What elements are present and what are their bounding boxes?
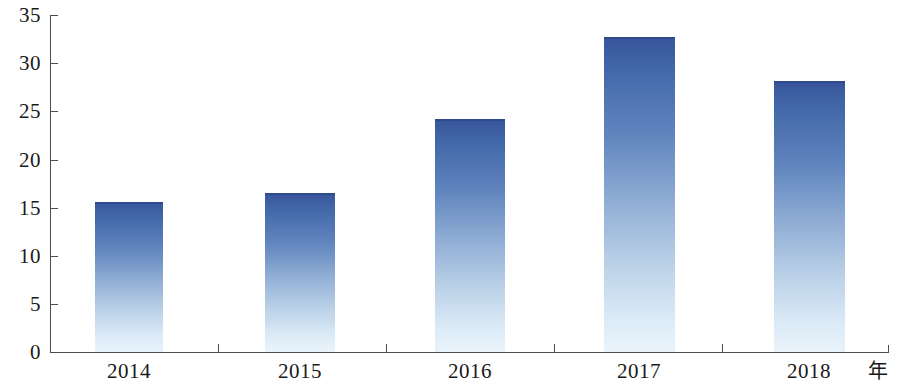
- x-axis-label-2016: 2016: [400, 360, 540, 383]
- y-tick-10: [51, 256, 58, 257]
- y-axis-label-0: 0: [1, 342, 41, 363]
- y-tick-20: [51, 160, 58, 161]
- y-axis-label-25: 25: [1, 101, 41, 122]
- x-axis-label-2014: 2014: [59, 360, 199, 383]
- bar-top-edge: [265, 193, 335, 195]
- x-axis-label-2018: 2018: [739, 360, 879, 383]
- y-axis-label-10: 10: [1, 246, 41, 267]
- y-axis-label-30: 30: [1, 53, 41, 74]
- x-tick-3: [554, 344, 555, 352]
- y-axis-label-5: 5: [1, 294, 41, 315]
- x-axis-title: 年: [861, 360, 895, 383]
- bar-2016: [435, 119, 505, 352]
- y-axis-line: [50, 15, 51, 353]
- x-tick-1: [218, 344, 219, 352]
- y-axis-label-35: 35: [1, 5, 41, 26]
- y-tick-30: [51, 63, 58, 64]
- y-tick-25: [51, 111, 58, 112]
- y-tick-0: [51, 352, 58, 353]
- y-tick-15: [51, 208, 58, 209]
- bar-2014: [95, 202, 163, 352]
- y-axis-label-20: 20: [1, 150, 41, 171]
- bar-top-edge: [435, 119, 505, 121]
- bar-top-edge: [604, 37, 675, 39]
- bar-top-edge: [95, 202, 163, 204]
- x-axis-label-2015: 2015: [230, 360, 370, 383]
- bar-2017: [604, 37, 675, 352]
- x-tick-4: [722, 344, 723, 352]
- y-tick-35: [51, 15, 58, 16]
- bar-chart: 35 30 25 20 15 10 5 0 2014 2015 2016 201…: [0, 0, 897, 386]
- bar-2015: [265, 193, 335, 352]
- x-tick-2: [386, 344, 387, 352]
- x-axis-right-cap: [888, 345, 889, 353]
- bar-2018: [774, 81, 845, 352]
- x-axis-line: [50, 352, 888, 353]
- x-axis-label-2017: 2017: [569, 360, 709, 383]
- y-axis-label-15: 15: [1, 198, 41, 219]
- y-tick-5: [51, 304, 58, 305]
- bar-top-edge: [774, 81, 845, 83]
